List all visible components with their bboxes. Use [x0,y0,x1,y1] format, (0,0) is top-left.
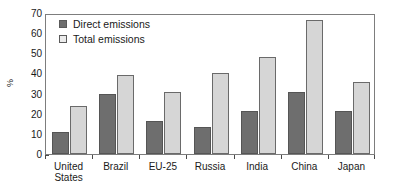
bar-group [241,15,276,154]
bar [164,92,181,154]
bar [212,73,229,154]
x-axis-tick-label: India [234,161,281,172]
x-axis-tick-label: United States [45,161,92,183]
light-square-icon [59,35,67,43]
bar-group [146,15,181,154]
y-axis-tick-label: 20 [16,110,42,120]
chart-legend: Direct emissions Total emissions [59,17,150,47]
y-axis-tick-label: 40 [16,69,42,79]
bar [259,57,276,154]
bar [70,106,87,154]
bar [241,111,258,154]
bar [306,20,323,154]
x-axis-tick-mark [186,155,187,159]
y-axis-label: % [5,75,15,91]
bar-group [288,15,323,154]
x-axis-tick-label: Japan [328,161,375,172]
y-axis-tick-label: 0 [16,150,42,160]
legend-item: Total emissions [59,32,150,46]
x-axis-tick-mark [328,155,329,159]
bar-chart: % 010203040506070 United StatesBrazilEU-… [0,0,397,194]
x-axis-tick-mark [234,155,235,159]
bar [52,132,69,154]
legend-item-label: Direct emissions [73,19,150,30]
bar [194,127,211,154]
bar [288,92,305,154]
bar [99,94,116,154]
dark-square-icon [59,20,67,28]
legend-item: Direct emissions [59,17,150,31]
x-axis-tick-label: Russia [186,161,233,172]
x-axis-tick-mark [281,155,282,159]
x-axis-tick-mark [45,155,46,159]
bar-group [194,15,229,154]
legend-item-label: Total emissions [73,34,145,45]
x-axis-tick-mark [139,155,140,159]
y-axis-tick-label: 30 [16,90,42,100]
y-axis-tick-label: 50 [16,49,42,59]
x-axis-tick-label: EU-25 [139,161,186,172]
y-axis-tick-label: 60 [16,29,42,39]
x-axis-tick-label: China [281,161,328,172]
y-axis-tick-label: 10 [16,130,42,140]
x-axis-tick-mark [92,155,93,159]
bar [146,121,163,154]
x-axis-tick-label: Brazil [92,161,139,172]
y-axis-tick-label: 70 [16,9,42,19]
bar [353,82,370,155]
x-axis-tick-mark [374,155,375,159]
bar [335,111,352,154]
bar-group [335,15,370,154]
y-axis-ticks: 010203040506070 [16,8,42,161]
bar [117,75,134,154]
x-axis: United StatesBrazilEU-25RussiaIndiaChina… [45,155,375,194]
